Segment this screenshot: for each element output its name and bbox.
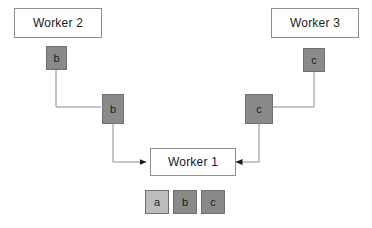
- connector-mid-b-to-worker1: [113, 124, 146, 162]
- tile-worker3-out-label: c: [311, 54, 317, 66]
- tile-worker2-out[interactable]: b: [46, 46, 67, 70]
- node-worker-1[interactable]: Worker 1: [150, 148, 236, 176]
- tile-buffer-1[interactable]: b: [173, 190, 197, 214]
- node-worker-1-label: Worker 1: [168, 155, 218, 169]
- tile-worker2-in-transit-label: b: [110, 103, 116, 115]
- tile-worker2-out-label: b: [53, 52, 59, 64]
- connector-worker2-to-mid: [56, 70, 101, 107]
- tile-buffer-1-label: b: [182, 196, 188, 208]
- tile-worker3-out[interactable]: c: [303, 48, 325, 72]
- tile-buffer-2[interactable]: c: [201, 190, 225, 214]
- node-worker-3-label: Worker 3: [290, 16, 340, 30]
- node-worker-2[interactable]: Worker 2: [14, 8, 102, 38]
- diagram-canvas: Worker 2 Worker 3 Worker 1 b b c c a b c: [0, 0, 372, 228]
- tile-buffer-2-label: c: [210, 196, 216, 208]
- tile-worker3-in-transit-label: c: [256, 103, 262, 115]
- node-worker-3[interactable]: Worker 3: [271, 8, 359, 38]
- connector-worker3-to-mid: [271, 72, 314, 107]
- tile-buffer-0-label: a: [154, 196, 160, 208]
- tile-worker2-in-transit[interactable]: b: [102, 94, 124, 124]
- tile-buffer-0[interactable]: a: [145, 190, 169, 214]
- node-worker-2-label: Worker 2: [33, 16, 83, 30]
- tile-worker3-in-transit[interactable]: c: [245, 94, 273, 124]
- connector-mid-c-to-worker1: [236, 124, 259, 162]
